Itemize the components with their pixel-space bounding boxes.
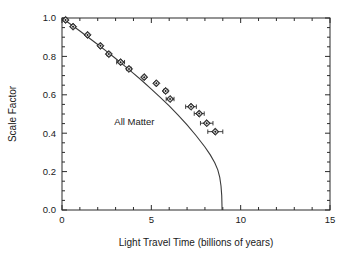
y-axis-title: Scale Factor	[7, 85, 18, 142]
x-tick-label: 10	[235, 214, 246, 225]
y-tick-label: 0.6	[43, 89, 56, 100]
x-tick-label: 5	[149, 214, 154, 225]
chart-annotations: All Matter	[114, 116, 154, 127]
y-tick-label: 1.0	[43, 12, 56, 23]
y-tick-label: 0.2	[43, 166, 56, 177]
x-tick-label: 0	[59, 214, 64, 225]
y-tick-label: 0.4	[43, 128, 56, 139]
figure-container: 051015 0.00.20.40.60.81.0 All Matter Lig…	[0, 0, 352, 261]
scale-factor-vs-light-travel-time-chart: 051015 0.00.20.40.60.81.0 All Matter Lig…	[0, 0, 352, 261]
y-axis-tick-labels: 0.00.20.40.60.81.0	[43, 12, 56, 215]
x-tick-label: 15	[325, 214, 336, 225]
x-axis-tick-labels: 051015	[59, 214, 335, 225]
y-tick-label: 0.0	[43, 204, 56, 215]
all-matter-label: All Matter	[114, 116, 154, 127]
y-tick-label: 0.8	[43, 51, 56, 62]
x-axis-title: Light Travel Time (billions of years)	[119, 237, 274, 248]
